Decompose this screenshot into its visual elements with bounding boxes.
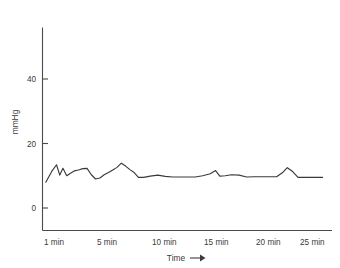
y-tick-label-20: 20	[27, 140, 37, 149]
x-tick-label-25min: 25 min	[300, 238, 325, 247]
line-chart: 40 20 0 mmHg 1 min 5 min 10 min 15 min 2…	[0, 0, 340, 268]
x-tick-label-20min: 20 min	[256, 238, 281, 247]
y-axis-title: mmHg	[10, 109, 20, 134]
x-tick-label-1min: 1 min	[44, 238, 64, 247]
chart-plot-area: 40 20 0 mmHg 1 min 5 min 10 min 15 min 2…	[0, 0, 340, 268]
x-tick-label-10min: 10 min	[152, 238, 177, 247]
y-axis-ticks	[43, 79, 49, 208]
x-tick-label-5min: 5 min	[97, 238, 117, 247]
data-series-line	[46, 163, 323, 182]
x-axis-arrow-icon	[190, 255, 206, 262]
x-tick-label-15min: 15 min	[204, 238, 229, 247]
y-tick-label-0: 0	[31, 204, 36, 213]
x-axis-title: Time	[167, 253, 186, 263]
y-tick-label-40: 40	[27, 75, 37, 84]
